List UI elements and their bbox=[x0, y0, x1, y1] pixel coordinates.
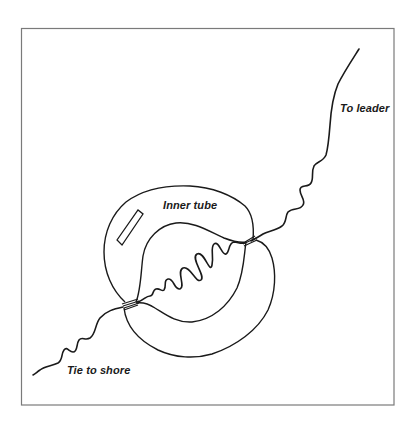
label-inner-tube: Inner tube bbox=[163, 199, 217, 211]
label-tie-to-shore: Tie to shore bbox=[67, 364, 130, 376]
line-to-leader bbox=[251, 49, 359, 241]
diagram-drawing bbox=[0, 0, 417, 431]
inner-tube-lower-outer-edge bbox=[124, 240, 275, 357]
label-to-leader: To leader bbox=[340, 102, 389, 114]
valve-stem-rectangle bbox=[117, 210, 143, 245]
inner-tube-float-diagram: To leader Inner tube Tie to shore bbox=[0, 0, 417, 431]
coiled-line-inside-tube bbox=[138, 242, 244, 302]
